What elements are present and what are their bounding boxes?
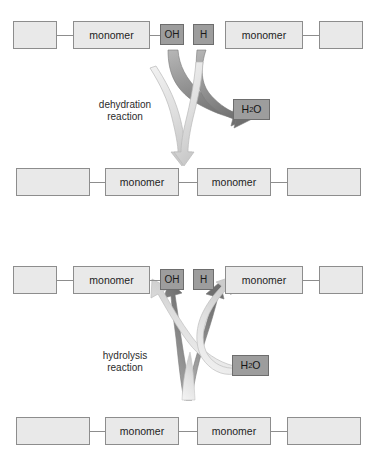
hydrolysis-caption: hydrolysis reaction xyxy=(84,350,166,374)
bond-1d xyxy=(303,35,319,36)
dehydration-caption-line1: dehydration xyxy=(99,99,151,110)
dehydration-caption: dehydration reaction xyxy=(83,99,167,123)
polymer-chain-left-bottom xyxy=(16,417,90,445)
hydroxyl-group-top: OH xyxy=(160,24,184,45)
monomer-left-hydrolysis: monomer xyxy=(73,266,150,294)
bond-4a xyxy=(90,431,105,432)
water-formula-o-2: O xyxy=(252,360,260,371)
polymer-chain-right-bottom xyxy=(287,417,361,445)
bond-2a xyxy=(90,182,105,183)
reaction-diagram: monomer OH H monomer dehydration reactio… xyxy=(0,0,386,460)
polymer-chain-left-hydrolysis xyxy=(13,266,57,294)
water-molecule-hydrolysis: H2O xyxy=(232,355,269,376)
monomer-right-hydrolysis: monomer xyxy=(225,266,303,294)
hydroxyl-group-hydrolysis: OH xyxy=(160,269,184,290)
water-formula-h: H xyxy=(242,104,250,115)
monomer-right-top: monomer xyxy=(225,21,303,49)
hydrolysis-caption-line2: reaction xyxy=(107,362,143,373)
polymer-chain-right-hydrolysis xyxy=(319,266,363,294)
monomer-right-bottom: monomer xyxy=(197,417,271,445)
polymer-chain-left-top xyxy=(13,21,57,49)
arrow-layer xyxy=(0,0,386,460)
water-formula-h-2: H xyxy=(241,360,249,371)
hydrogen-group-top: H xyxy=(193,24,214,45)
hydrolysis-caption-line1: hydrolysis xyxy=(103,350,147,361)
bond-2b xyxy=(179,182,197,183)
polymer-chain-left-product xyxy=(16,168,90,196)
monomer-left-top: monomer xyxy=(73,21,150,49)
hydrogen-group-hydrolysis: H xyxy=(193,269,214,290)
bond-3d xyxy=(303,280,319,281)
polymer-chain-right-top xyxy=(319,21,363,49)
dehydration-caption-line2: reaction xyxy=(107,111,143,122)
monomer-right-product: monomer xyxy=(197,168,271,196)
bond-2c xyxy=(271,182,287,183)
bond-1a xyxy=(57,35,73,36)
polymer-chain-right-product xyxy=(287,168,361,196)
water-formula-o: O xyxy=(253,104,261,115)
monomer-left-product: monomer xyxy=(105,168,179,196)
monomer-left-bottom: monomer xyxy=(105,417,179,445)
bond-3a xyxy=(57,280,73,281)
water-molecule-dehydration: H2O xyxy=(233,99,270,120)
bond-4b xyxy=(179,431,197,432)
bond-4c xyxy=(271,431,287,432)
